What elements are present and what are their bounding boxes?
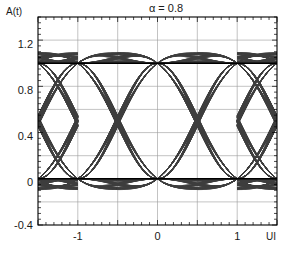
- x-tick-label-3: 1: [234, 230, 240, 242]
- y-tick-label-5: -0.4: [14, 219, 33, 231]
- chart-title: α = 0.8: [149, 2, 183, 14]
- x-tick-label-2: 0: [154, 230, 160, 242]
- y-tick-label-1: 1.2: [18, 38, 33, 50]
- y-axis-label: A(t): [6, 6, 22, 17]
- figure-caption: [46, 252, 276, 260]
- y-tick-label-3: 0.4: [18, 130, 33, 142]
- eye-diagram-figure: α = 0.8 A(t) 1.2 0.8 0.4: [0, 0, 290, 260]
- y-tick-label-2: 0.8: [18, 84, 33, 96]
- x-axis-unit-label: UI: [266, 231, 276, 242]
- y-tick-label-4: 0: [27, 176, 33, 188]
- x-tick-label-1: -1: [73, 230, 83, 242]
